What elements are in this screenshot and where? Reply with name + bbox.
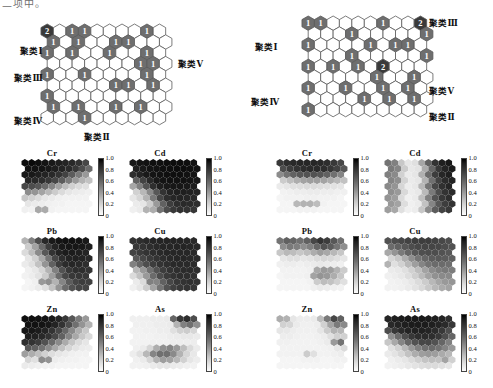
colorbar-tick-label: 1.0: [361, 311, 369, 318]
colorbar-ticks: 1.00.80.60.40.20: [469, 311, 477, 375]
som-hex-count: 2: [45, 26, 49, 36]
colorbar-tick-label: 0: [214, 213, 222, 220]
colorbar-tick-label: 0.6: [469, 334, 477, 341]
colorbar: 1.00.80.60.40.20: [353, 236, 359, 294]
som-hex-empty[interactable]: [91, 110, 103, 124]
som-hex-empty[interactable]: [66, 110, 78, 124]
plot-title: Zn: [275, 304, 339, 314]
plot-title: Cd: [383, 148, 447, 158]
colorbar-tick-label: 0: [361, 369, 369, 376]
colorbar-tick-label: 0.6: [106, 334, 114, 341]
colorbar-tick-label: 1.0: [214, 155, 222, 162]
left-cluster-4: 聚类Ⅳ: [14, 114, 43, 126]
som-hex-count: 1: [139, 59, 143, 69]
plot-title: Pb: [20, 226, 84, 236]
som-hex-empty[interactable]: [153, 110, 165, 124]
plot-hexgrid: [275, 314, 349, 379]
som-hex-count: 1: [82, 26, 86, 36]
colorbar-ticks: 1.00.80.60.40.20: [469, 155, 477, 219]
som-hex-empty[interactable]: [414, 102, 426, 116]
colorbar-gradient: [98, 158, 104, 216]
som-hex-count: 1: [368, 40, 372, 50]
som-hex-empty[interactable]: [352, 102, 364, 116]
colorbar-tick-label: 1.0: [469, 155, 477, 162]
plot-hexgrid: [383, 236, 457, 301]
som-hex-count: 1: [387, 94, 391, 104]
som-hex-empty[interactable]: [103, 110, 115, 124]
left-cluster-3: 聚类Ⅲ: [14, 71, 43, 83]
colorbar-tick-label: 0.2: [106, 357, 114, 364]
som-hex-empty[interactable]: [389, 102, 401, 116]
colorbar-ticks: 1.00.80.60.40.20: [214, 233, 222, 297]
plot-hexgrid: [128, 314, 202, 379]
plot-hexgrid: [275, 236, 349, 301]
plot-title: Cu: [128, 226, 192, 236]
som-hex-count: 1: [381, 83, 385, 93]
som-hex-count: 1: [76, 102, 80, 112]
som-hex-count: 1: [114, 102, 118, 112]
som-hex-count: 1: [306, 83, 310, 93]
right-cluster-4: 聚类Ⅳ: [251, 95, 280, 107]
colorbar: 1.00.80.60.40.20: [206, 314, 212, 372]
som-hex-empty[interactable]: [327, 102, 339, 116]
colorbar-tick-label: 1.0: [106, 311, 114, 318]
right-panel: 11121111111111121111111111 聚类Ⅲ聚类Ⅰ聚类Ⅴ聚类Ⅳ聚…: [247, 0, 493, 388]
colorbar-tick-label: 0.6: [469, 178, 477, 185]
colorbar: 1.00.80.60.40.20: [461, 158, 467, 216]
som-hex-empty[interactable]: [141, 110, 153, 124]
colorbar-tick-label: 0: [469, 213, 477, 220]
som-hex-filled[interactable]: 1: [302, 102, 314, 116]
som-hex-empty[interactable]: [53, 110, 65, 124]
left-som-hexmap[interactable]: 21111111111111111111111111: [38, 22, 174, 136]
som-hex-count: 1: [126, 37, 130, 47]
colorbar: 1.00.80.60.40.20: [98, 314, 104, 372]
plot-hexgrid: [128, 158, 202, 223]
plot-hexgrid: [275, 158, 349, 223]
colorbar: 1.00.80.60.40.20: [206, 236, 212, 294]
som-hex-count: 1: [145, 48, 149, 58]
som-hex-empty[interactable]: [314, 102, 326, 116]
colorbar-tick-label: 0.6: [361, 334, 369, 341]
colorbar-tick-label: 0.6: [214, 178, 222, 185]
som-hex-count: 1: [151, 80, 155, 90]
som-hex-count: 1: [343, 83, 347, 93]
colorbar-ticks: 1.00.80.60.40.20: [106, 233, 114, 297]
colorbar-gradient: [461, 158, 467, 216]
som-hex-count: 1: [45, 48, 49, 58]
colorbar-ticks: 1.00.80.60.40.20: [214, 155, 222, 219]
som-hex-empty[interactable]: [116, 110, 128, 124]
colorbar-tick-label: 0.4: [106, 268, 114, 275]
som-hex-empty[interactable]: [364, 102, 376, 116]
som-hex-count: 1: [425, 29, 429, 39]
colorbar-tick-label: 0.2: [106, 201, 114, 208]
som-hex-count: 1: [76, 37, 80, 47]
right-cluster-3: 聚类Ⅲ: [429, 16, 458, 28]
colorbar-tick-label: 0.8: [361, 245, 369, 252]
colorbar: 1.00.80.60.40.20: [98, 236, 104, 294]
som-hex-count: 1: [412, 94, 416, 104]
som-hex-count: 1: [82, 70, 86, 80]
colorbar-gradient: [98, 314, 104, 372]
som-hex-filled[interactable]: 1: [78, 110, 90, 124]
plot-title: Pb: [275, 226, 339, 236]
plot-title: Cu: [383, 226, 447, 236]
som-hex-empty[interactable]: [128, 110, 140, 124]
right-som-hexmap[interactable]: 11121111111111121111111111: [299, 14, 435, 128]
plot-title: Cr: [20, 148, 84, 158]
colorbar-ticks: 1.00.80.60.40.20: [106, 155, 114, 219]
som-hex-empty[interactable]: [339, 102, 351, 116]
som-hex-empty[interactable]: [402, 102, 414, 116]
som-hex-count: 1: [406, 40, 410, 50]
colorbar-tick-label: 0.6: [214, 334, 222, 341]
left-panel: 21111111111111111111111111 聚类Ⅰ聚类Ⅲ聚类Ⅴ聚类Ⅳ聚…: [0, 0, 246, 388]
som-hex-count: 1: [151, 59, 155, 69]
colorbar-tick-label: 0.4: [214, 268, 222, 275]
colorbar-gradient: [206, 158, 212, 216]
som-hex-count: 1: [45, 91, 49, 101]
som-hex-count: 1: [362, 94, 366, 104]
som-hex-empty[interactable]: [377, 102, 389, 116]
colorbar-ticks: 1.00.80.60.40.20: [469, 233, 477, 297]
som-hex-count: 1: [406, 83, 410, 93]
colorbar-tick-label: 0.8: [469, 245, 477, 252]
left-cluster-1: 聚类Ⅰ: [20, 44, 43, 56]
